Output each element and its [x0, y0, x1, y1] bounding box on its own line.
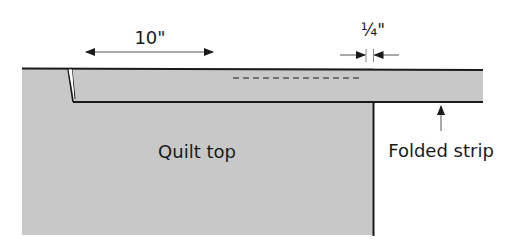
- width-measure-label: 10": [134, 27, 165, 48]
- seam-allowance-label: ¼": [361, 20, 385, 40]
- folded-strip-callout: Folded strip: [388, 106, 494, 161]
- seam-allowance-measure: ¼": [340, 20, 399, 62]
- width-measure: 10": [86, 27, 213, 52]
- folded-strip-shape: [22, 69, 483, 103]
- binding-diagram: 10" ¼" Folded strip Quilt top: [0, 0, 523, 243]
- quilt-top-label: Quilt top: [158, 141, 236, 162]
- diagram-canvas: 10" ¼" Folded strip Quilt top: [0, 0, 523, 243]
- folded-strip-label: Folded strip: [388, 140, 494, 161]
